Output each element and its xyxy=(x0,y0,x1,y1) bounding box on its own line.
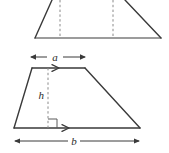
lower-trapezoid-right-side xyxy=(85,68,140,128)
upper-trapezoid-right-side xyxy=(125,0,161,38)
trapezoid-figure: a h xyxy=(0,0,169,153)
dimension-a-group: a xyxy=(30,51,86,63)
label-b: b xyxy=(71,135,77,147)
dimension-b-arrow-right xyxy=(134,138,140,143)
dimension-b-arrow-left xyxy=(14,138,20,143)
lower-trapezoid-left-side xyxy=(14,68,32,128)
dimension-b-group: b xyxy=(14,135,140,147)
dimension-a-arrow-left xyxy=(30,54,36,60)
lower-trapezoid-group: h xyxy=(14,65,140,132)
label-a: a xyxy=(52,51,58,63)
label-h: h xyxy=(39,89,45,101)
geometry-diagram-svg: a h xyxy=(0,0,169,153)
upper-trapezoid-left-side xyxy=(35,0,52,38)
upper-trapezoid-group xyxy=(35,0,161,38)
right-angle-marker-icon xyxy=(48,119,57,128)
dimension-a-arrow-right xyxy=(80,54,86,60)
